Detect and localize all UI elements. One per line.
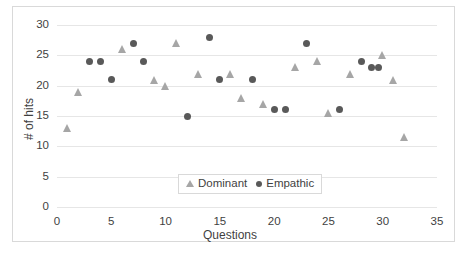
- triangle-marker-icon: [186, 180, 194, 187]
- legend-item-empathic[interactable]: Empathic: [256, 178, 314, 190]
- legend-item-dominant[interactable]: Dominant: [186, 178, 247, 190]
- x-axis-title: Questions: [150, 228, 310, 242]
- scatter-chart: 05101520253005101520253035 Dominant Empa…: [0, 0, 470, 255]
- legend-label-empathic: Empathic: [266, 178, 314, 190]
- chart-border: [12, 6, 455, 242]
- y-axis-title: # of hits: [22, 98, 36, 140]
- circle-marker-icon: [256, 181, 262, 187]
- chart-legend: Dominant Empathic: [178, 174, 322, 194]
- legend-label-dominant: Dominant: [198, 178, 247, 190]
